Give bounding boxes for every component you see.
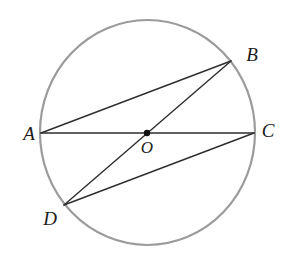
circle-diagram: A B C D O (0, 0, 282, 256)
center-point-dot (144, 130, 150, 136)
chord-ab (41, 61, 231, 133)
point-label-c: C (262, 120, 275, 141)
point-label-a: A (21, 123, 35, 144)
point-label-b: B (246, 44, 258, 65)
point-label-d: D (42, 208, 57, 229)
center-label-o: O (141, 138, 153, 157)
geometry-figure: A B C D O (0, 0, 282, 256)
chord-dc (64, 133, 254, 205)
